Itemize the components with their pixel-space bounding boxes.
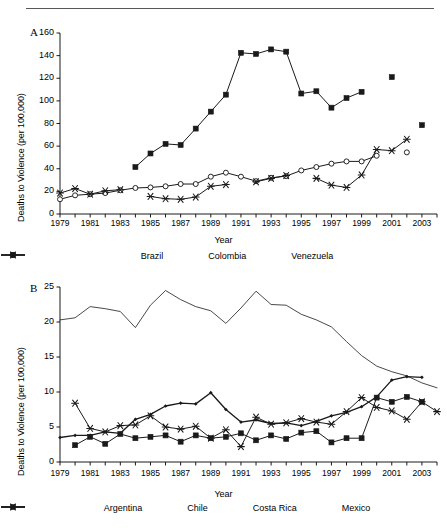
legend-item-mexico: Mexico [315,502,371,513]
legend-marker-dot-icon [77,503,103,513]
legend-item-costa-rica: Costa Rica [226,502,297,513]
figure-page: A Deaths to Violence (per 100,000) 02040… [0,0,447,528]
legend-item-chile: Chile [160,502,208,513]
legend-label: Brazil [141,251,164,261]
legend-label: Argentina [104,503,143,513]
legend-item-venezuela: Venezuela [264,250,333,261]
legend-marker-square-icon [181,251,207,261]
legend-marker-asterisk-icon [226,503,252,513]
legend-item-argentina: Argentina [77,502,143,513]
legend-label: Venezuela [291,251,333,261]
panel-a: A Deaths to Violence (per 100,000) 02040… [0,22,447,270]
panel-b-legend: ArgentinaChileCosta RicaMexico [0,502,447,513]
panel-b: B Deaths to Violence (per 100,000) 05101… [0,278,447,528]
legend-marker-square-icon [160,503,186,513]
panel-a-plot [0,22,447,270]
legend-item-colombia: Colombia [181,250,246,261]
legend-marker-asterisk-icon [264,251,290,261]
legend-label: Colombia [208,251,246,261]
legend-marker-circle-icon [114,251,140,261]
legend-label: Chile [187,503,208,513]
legend-label: Costa Rica [253,503,297,513]
legend-marker-none-icon [315,503,341,513]
panel-a-legend: BrazilColombiaVenezuela [0,250,447,261]
legend-item-brazil: Brazil [114,250,164,261]
legend-label: Mexico [342,503,371,513]
header-rule [26,8,434,9]
panel-b-plot [0,278,447,528]
